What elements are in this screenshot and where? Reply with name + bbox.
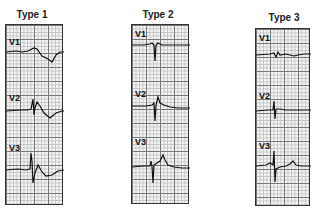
ecg-strip-type-3: V1 V2 V3: [255, 28, 310, 206]
panel-title-type-3: Type 3: [269, 12, 300, 23]
ecg-trace-type-1: [6, 25, 64, 206]
ecg-trace-type-3: [256, 29, 311, 207]
panel-title-type-2: Type 2: [143, 9, 174, 20]
panel-title-type-1: Type 1: [17, 9, 48, 20]
ecg-strip-type-1: V1 V2 V3: [5, 24, 63, 205]
ecg-strip-type-2: V1 V2 V3: [131, 24, 189, 204]
ecg-trace-type-2: [132, 25, 190, 205]
